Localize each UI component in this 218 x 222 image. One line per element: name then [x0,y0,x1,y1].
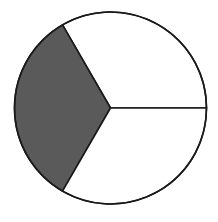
fraction-circle-diagram [0,0,218,222]
sectors-group [15,12,207,204]
